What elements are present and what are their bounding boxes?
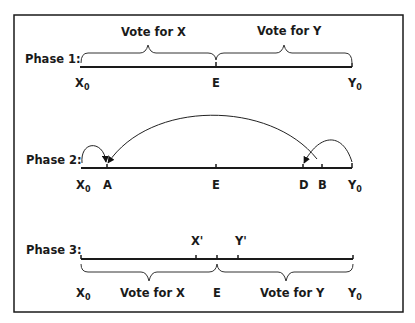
point-d: D [299, 178, 309, 192]
brace-vote-for-x [81, 45, 216, 63]
point-x0: X0 [76, 178, 91, 194]
point-e: E [212, 178, 220, 192]
point-x0: X0 [75, 76, 90, 92]
point-y0: Y0 [347, 286, 362, 302]
point-a: A [103, 178, 112, 192]
phase-1: Phase 1: Vote for X Vote for Y X0 E Y0 [25, 24, 362, 92]
point-y-prime: Y' [234, 234, 247, 248]
point-y0: Y0 [347, 76, 362, 92]
phase-2-label: Phase 2: [26, 153, 82, 167]
phase-1-label: Phase 1: [25, 52, 81, 66]
point-y0: Y0 [347, 178, 362, 194]
point-b: B [318, 178, 327, 192]
brace-label-vote-for-y: Vote for Y [260, 286, 325, 300]
brace-vote-for-x [81, 264, 217, 281]
arrow-y0-to-d [304, 140, 352, 163]
phase-diagram: Phase 1: Vote for X Vote for Y X0 E Y0 P… [0, 0, 415, 323]
brace-vote-for-y [217, 264, 353, 281]
phase-3: Phase 3: X' Y' X0 Vote for X E Vote for … [26, 234, 362, 302]
brace-label-vote-for-x: Vote for X [120, 286, 185, 300]
point-e: E [212, 76, 220, 90]
arrow-x0-to-a [82, 146, 106, 163]
point-e: E [213, 286, 221, 300]
phase-2: Phase 2: X0 A E D B Y0 [26, 115, 362, 194]
point-x0: X0 [76, 286, 91, 302]
brace-vote-for-y [216, 45, 352, 63]
brace-label-vote-for-x: Vote for X [121, 25, 186, 39]
phase-3-label: Phase 3: [26, 243, 82, 257]
point-x-prime: X' [191, 234, 203, 248]
arrow-d-to-a [108, 115, 317, 163]
brace-label-vote-for-y: Vote for Y [257, 24, 322, 38]
